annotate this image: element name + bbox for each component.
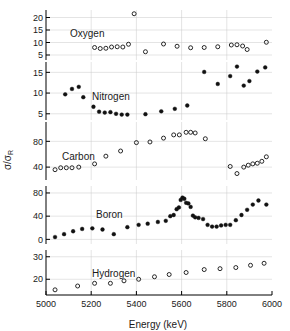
data-point [228, 164, 232, 168]
data-point [229, 43, 233, 47]
data-point [202, 46, 206, 50]
x-tick-label: 6000 [262, 299, 282, 309]
data-point [245, 208, 249, 212]
y-axis-title: σ/σR [2, 150, 14, 170]
data-point [202, 268, 206, 272]
data-point [104, 154, 108, 158]
data-point [186, 202, 190, 206]
panel-carbon: 4080Carbon [33, 122, 272, 180]
data-point [202, 70, 206, 74]
data-point [77, 85, 81, 89]
data-point [216, 82, 220, 86]
series-oxygen [93, 12, 269, 54]
data-point [215, 225, 219, 229]
data-point [93, 281, 97, 285]
panels-layer: 5101520Oxygen51015Nitrogen4080Carbon0408… [33, 10, 272, 295]
chart-figure: 5101520Oxygen51015Nitrogen4080Carbon0408… [0, 0, 290, 331]
data-point [234, 218, 238, 222]
data-point [264, 155, 268, 159]
x-tick-label: 5800 [217, 299, 237, 309]
data-point [206, 223, 210, 227]
data-point [242, 84, 246, 88]
data-point [228, 74, 232, 78]
data-point [175, 44, 179, 48]
data-point [216, 45, 220, 49]
data-point [104, 46, 108, 50]
y-axis-label: σ/σR [2, 150, 14, 170]
data-point [177, 133, 181, 137]
data-point [189, 46, 193, 50]
data-point [110, 45, 114, 49]
data-point [125, 113, 129, 117]
data-point [109, 110, 113, 114]
data-point [193, 215, 197, 219]
data-point [70, 166, 74, 170]
data-point [172, 133, 176, 137]
data-point [193, 131, 197, 135]
panel-nitrogen: 51015Nitrogen [33, 62, 272, 120]
data-point [92, 105, 96, 109]
data-point [112, 232, 116, 236]
data-point [255, 70, 259, 74]
data-point [235, 172, 239, 176]
data-point [260, 159, 264, 163]
data-point [235, 65, 239, 69]
data-point [80, 227, 84, 231]
data-point [152, 275, 156, 279]
data-point [103, 111, 107, 115]
data-point [120, 113, 124, 117]
data-point [257, 199, 261, 203]
data-point [126, 42, 130, 46]
data-point [148, 140, 152, 144]
series-boron [53, 196, 268, 239]
y-tick-label: 15 [33, 25, 43, 35]
data-point [90, 226, 94, 230]
data-point [210, 225, 214, 229]
data-point [63, 92, 67, 96]
data-point [143, 50, 147, 54]
data-point [167, 273, 171, 277]
data-point [249, 263, 253, 267]
data-point [189, 130, 193, 134]
data-point [263, 65, 267, 69]
data-point [159, 109, 163, 113]
data-point [62, 232, 66, 236]
data-point [224, 223, 228, 227]
data-point [108, 281, 112, 285]
data-point [97, 110, 101, 114]
data-point [53, 235, 57, 239]
y-tick-label: 20 [33, 274, 43, 284]
data-point [53, 288, 57, 292]
data-point [218, 267, 222, 271]
data-point [228, 223, 232, 227]
data-point [251, 162, 255, 166]
data-point [70, 87, 74, 91]
y-tick-label: 0 [38, 235, 43, 245]
data-point [185, 104, 189, 108]
data-point [98, 47, 102, 51]
data-point [255, 161, 259, 165]
multi-panel-scatter-chart: 5101520Oxygen51015Nitrogen4080Carbon0408… [0, 0, 290, 331]
data-point [115, 45, 119, 49]
x-tick-label: 5400 [126, 299, 146, 309]
data-point [59, 166, 63, 170]
y-tick-label: 10 [33, 88, 43, 98]
y-tick-label: 20 [33, 13, 43, 23]
y-tick-label: 40 [33, 211, 43, 221]
y-axis-label-subscript: R [7, 150, 14, 155]
x-axis-title: Energy (keV) [129, 319, 187, 330]
y-tick-label: 80 [33, 188, 43, 198]
data-point [81, 95, 85, 99]
panel-hydrogen: 2030Hydrogen [33, 250, 272, 295]
data-point [156, 220, 160, 224]
data-point [184, 130, 188, 134]
x-tick-label: 5200 [81, 299, 101, 309]
x-tick-label: 5600 [172, 299, 192, 309]
data-point [241, 44, 245, 48]
data-point [184, 271, 188, 275]
data-point [137, 223, 141, 227]
x-axis: 500052005400560058006000 [36, 291, 282, 309]
data-point [114, 112, 118, 116]
data-point [101, 228, 105, 232]
data-point [146, 222, 150, 226]
